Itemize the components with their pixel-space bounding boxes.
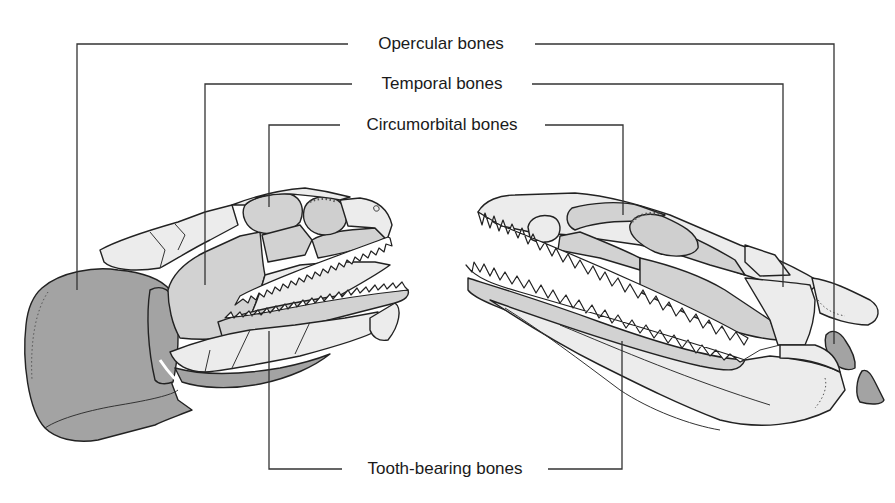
right-skull — [466, 193, 884, 430]
label-tooth-bearing-bones: Tooth-bearing bones — [360, 459, 529, 479]
left-skull — [25, 188, 409, 441]
label-opercular-bones: Opercular bones — [371, 34, 511, 54]
left-orbit — [304, 197, 347, 235]
label-circumorbital-bones: Circumorbital bones — [359, 115, 524, 135]
right-orbit — [630, 214, 698, 256]
label-temporal-bones: Temporal bones — [375, 74, 510, 94]
